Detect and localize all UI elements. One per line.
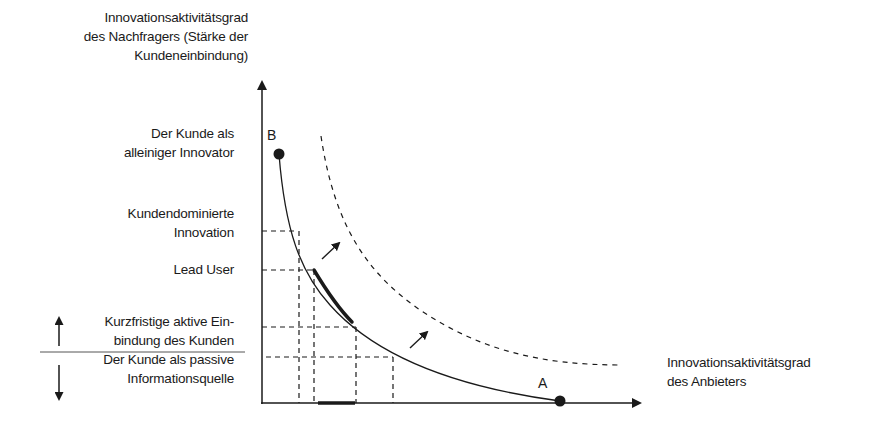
shift-arrow-icon [410,332,427,348]
main-curve [279,154,560,401]
shift-arrow-icon [322,243,339,259]
point-b-marker [274,149,285,160]
point-a-marker [555,396,566,407]
dashed-guides [262,231,393,403]
outer-dashed-curve [321,136,622,365]
bold-curve-segment [314,270,352,322]
innovation-curve-diagram [0,0,886,439]
